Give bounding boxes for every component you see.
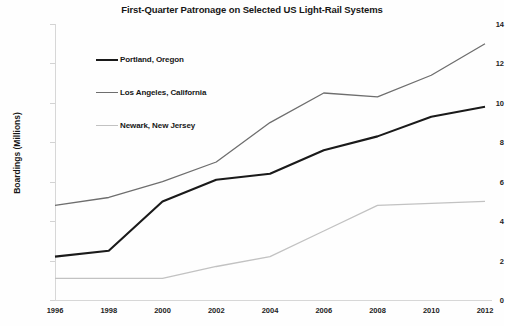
x-axis-tick-label: 2008 [358, 306, 398, 315]
legend-item-label: Los Angeles, California [120, 88, 206, 97]
legend-item: Newark, New Jersey [96, 116, 206, 127]
legend-item: Portland, Oregon [96, 50, 206, 61]
legend-line-swatch [96, 92, 118, 93]
legend-line-swatch [96, 125, 118, 126]
x-axis-tick-label: 2002 [196, 306, 236, 315]
legend-item-label: Portland, Oregon [120, 55, 184, 64]
legend-line-swatch [96, 59, 118, 61]
x-axis-tick-label: 2004 [250, 306, 290, 315]
chart-legend: Portland, OregonLos Angeles, CaliforniaN… [96, 50, 206, 149]
y-axis-title: Boardings (Millions) [12, 83, 22, 223]
x-axis-tick-label: 1996 [35, 306, 75, 315]
x-axis-tick-label: 2000 [143, 306, 183, 315]
x-axis-tick-label: 2012 [465, 306, 505, 315]
legend-item-label: Newark, New Jersey [120, 121, 195, 130]
legend-item: Los Angeles, California [96, 83, 206, 94]
y-axis-tick-mark [50, 300, 55, 301]
x-axis-line [55, 300, 492, 301]
x-axis-tick-label: 2006 [304, 306, 344, 315]
x-axis-tick-label: 1998 [89, 306, 129, 315]
x-axis-tick-label: 2010 [411, 306, 451, 315]
chart-title: First-Quarter Patronage on Selected US L… [0, 4, 504, 15]
